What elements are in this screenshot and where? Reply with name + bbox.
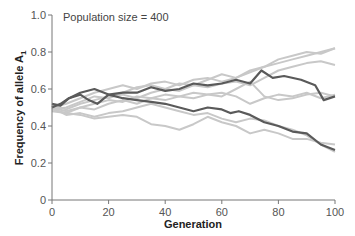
allele-frequency-chart: 00.20.40.60.81.0 020406080100 Population… — [0, 0, 355, 236]
y-tick-label: 0.8 — [31, 46, 46, 58]
background-runs — [52, 48, 335, 152]
x-tick-label: 0 — [49, 206, 55, 218]
y-axis-title-main: Frequency of allele A — [13, 55, 25, 165]
x-tick-label: 60 — [216, 206, 228, 218]
x-tick-label: 40 — [159, 206, 171, 218]
y-axis-ticks: 00.20.40.60.81.0 — [31, 9, 52, 206]
x-tick-label: 80 — [272, 206, 284, 218]
y-tick-label: 0.6 — [31, 83, 46, 95]
population-size-annotation: Population size = 400 — [63, 11, 169, 23]
x-axis-title: Generation — [164, 218, 222, 230]
y-tick-label: 0.4 — [31, 120, 46, 132]
y-axis-title-subscript: 1 — [19, 50, 28, 55]
y-axis-title: Frequency of allele A1 — [13, 50, 28, 165]
x-tick-label: 20 — [102, 206, 114, 218]
y-tick-label: 1.0 — [31, 9, 46, 21]
y-tick-label: 0.2 — [31, 157, 46, 169]
x-tick-label: 100 — [326, 206, 344, 218]
x-axis-ticks: 020406080100 — [49, 200, 344, 218]
y-tick-label: 0 — [40, 194, 46, 206]
